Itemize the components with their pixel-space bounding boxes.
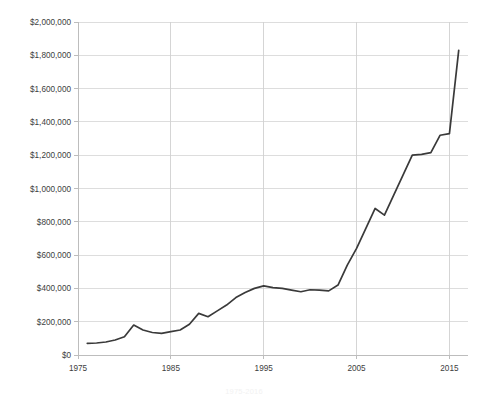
x-axis-tick-label: 1995	[255, 364, 274, 373]
y-axis-tick-label: $400,000	[37, 284, 72, 293]
y-axis-tick-label: $1,800,000	[30, 51, 71, 60]
horizontal-gridlines	[78, 22, 468, 355]
line-chart: $0$200,000$400,000$600,000$800,000$1,000…	[0, 0, 488, 397]
y-axis-tick-label: $2,000,000	[30, 18, 71, 27]
y-axis-tick-label: $1,200,000	[30, 151, 71, 160]
axis-lines	[78, 22, 468, 359]
y-axis-tick-label: $1,600,000	[30, 85, 71, 94]
x-axis-tick-labels: 19751985199520052015	[69, 364, 459, 373]
y-axis-tick-label: $200,000	[37, 318, 72, 327]
y-axis-tick-label: $1,400,000	[30, 118, 71, 127]
chart-container: $0$200,000$400,000$600,000$800,000$1,000…	[0, 0, 488, 397]
y-axis-tick-label: $600,000	[37, 251, 72, 260]
x-axis-tick-label: 1985	[162, 364, 181, 373]
chart-caption: 1975-2016	[0, 387, 488, 396]
data-series-group	[87, 50, 458, 343]
x-axis-tick-marks	[78, 355, 449, 359]
x-axis-tick-label: 1975	[69, 364, 88, 373]
x-axis-tick-label: 2015	[440, 364, 459, 373]
y-axis-tick-marks	[74, 22, 78, 355]
y-axis-tick-label: $800,000	[37, 218, 72, 227]
y-axis-tick-label: $0	[62, 351, 72, 360]
x-axis-tick-label: 2005	[347, 364, 366, 373]
y-axis-tick-label: $1,000,000	[30, 185, 71, 194]
data-line-series	[87, 50, 458, 343]
y-axis-tick-labels: $0$200,000$400,000$600,000$800,000$1,000…	[30, 18, 71, 360]
